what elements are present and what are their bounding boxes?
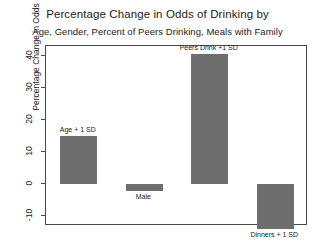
y-axis-tick-label: 30 [24, 77, 34, 97]
bar-value-label: Male [101, 192, 187, 201]
y-axis-tick-label: 10 [24, 141, 34, 161]
y-axis-tick-label: -10 [24, 205, 34, 225]
bar-value-label: Peers Drink +1 SD [166, 43, 252, 52]
chart-subtitle: Age, Gender, Percent of Peers Drinking, … [0, 26, 315, 37]
y-axis-tick-label: 20 [24, 109, 34, 129]
bar [60, 136, 97, 184]
bar [126, 184, 163, 190]
bar-value-label: Age + 1 SD [35, 125, 121, 134]
bar [257, 184, 294, 229]
chart-title: Percentage Change in Odds of Drinking by [0, 8, 315, 20]
y-axis-tick-label: 0 [24, 173, 34, 193]
bar-value-label: Dinners + 1 SD [232, 230, 316, 239]
bar [191, 54, 228, 184]
y-axis-tick-label: 40 [24, 45, 34, 65]
chart-figure: Percentage Change in Odds of Drinking by… [0, 0, 315, 247]
